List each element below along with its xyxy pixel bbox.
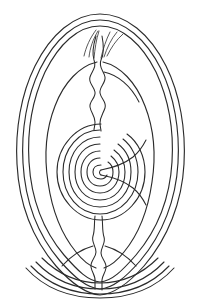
apex-fan-line-6: [107, 34, 123, 56]
shoulder-group: [62, 72, 139, 266]
spiral-group: [57, 124, 145, 220]
figure-canvas: Teardrop spiral line drawing Monochrome …: [0, 0, 201, 307]
wedge-upper-edge: [101, 140, 146, 170]
inner-ovoid-left: [46, 62, 97, 268]
lower-shoulder-left: [62, 246, 93, 266]
base-arc-group: [26, 258, 174, 298]
wedge-tip: [100, 170, 102, 175]
base-arc-2: [36, 262, 164, 289]
apex-fan-line-5: [104, 32, 117, 57]
base-arc-3: [31, 266, 169, 294]
line-drawing: [0, 0, 201, 307]
lower-stem-left-line: [91, 216, 96, 289]
upper-shoulder-right: [104, 72, 139, 102]
apex-fan-line-3: [94, 31, 99, 58]
spiral-ring-outer: [57, 124, 145, 220]
lower-stem-right-line: [101, 216, 106, 290]
wedge-lower-edge: [101, 175, 146, 205]
upper-stem-group: [90, 36, 106, 131]
lower-stem-group: [91, 216, 106, 290]
spiral-ring-2: [63, 130, 138, 214]
